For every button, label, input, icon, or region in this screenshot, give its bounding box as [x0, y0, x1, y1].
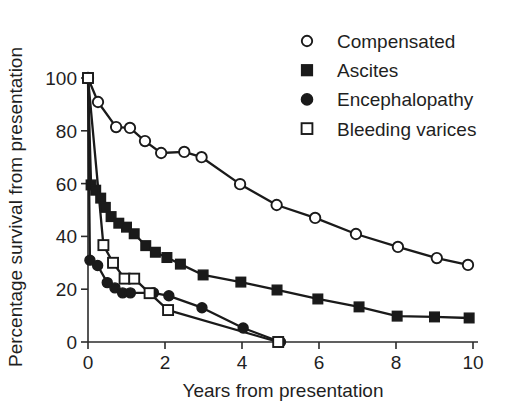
data-point — [313, 294, 323, 304]
data-point — [125, 123, 135, 133]
data-point — [464, 313, 474, 323]
data-point — [271, 200, 281, 210]
y-tick-label: 40 — [56, 226, 77, 247]
data-point — [141, 241, 151, 251]
data-point — [430, 312, 440, 322]
data-point — [162, 253, 172, 263]
data-point — [93, 260, 103, 270]
y-tick-label: 80 — [56, 121, 77, 142]
legend-label: Bleeding varices — [337, 119, 476, 140]
data-point — [164, 291, 174, 301]
legend-item-ascites[interactable]: Ascites — [302, 60, 399, 81]
survival-chart-figure: 020406080100 0246810 Years from presenta… — [0, 0, 505, 419]
data-point — [354, 302, 364, 312]
x-tick-label: 6 — [314, 352, 325, 373]
y-axis-ticks: 020406080100 — [45, 68, 88, 353]
data-point — [351, 229, 361, 239]
data-point — [129, 229, 139, 239]
legend-marker-open-square-icon — [302, 123, 313, 134]
legend-item-compensated[interactable]: Compensated — [302, 31, 455, 52]
data-point — [129, 274, 139, 284]
data-point — [145, 288, 155, 298]
legend-item-bleeding-varices[interactable]: Bleeding varices — [302, 119, 477, 140]
x-axis-title: Years from presentation — [182, 380, 383, 401]
legend-label: Ascites — [337, 60, 398, 81]
legend-marker-open-circle-icon — [302, 36, 312, 46]
data-point — [463, 260, 473, 270]
chart-legend: CompensatedAscitesEncephalopathyBleeding… — [301, 31, 476, 140]
data-point — [197, 303, 207, 313]
data-point — [432, 253, 442, 263]
x-tick-label: 10 — [462, 352, 483, 373]
data-point — [96, 193, 106, 203]
data-point — [273, 337, 283, 347]
data-point — [196, 152, 206, 162]
x-tick-label: 4 — [237, 352, 248, 373]
data-point — [179, 147, 189, 157]
x-tick-label: 8 — [391, 352, 402, 373]
series-bleeding-varices — [83, 73, 283, 347]
legend-label: Compensated — [337, 31, 455, 52]
data-point — [393, 242, 403, 252]
data-point — [163, 305, 173, 315]
x-tick-label: 0 — [83, 352, 94, 373]
data-point — [140, 136, 150, 146]
series-layer — [83, 73, 474, 347]
y-tick-label: 0 — [66, 332, 77, 353]
data-point — [176, 259, 186, 269]
data-point — [198, 270, 208, 280]
data-point — [151, 247, 161, 257]
series-line — [88, 78, 469, 318]
data-point — [272, 285, 282, 295]
y-axis-title: Percentage survival from presentation — [5, 47, 26, 367]
legend-item-encephalopathy[interactable]: Encephalopathy — [301, 89, 473, 110]
y-tick-label: 100 — [45, 68, 77, 89]
data-point — [83, 73, 93, 83]
legend-marker-filled-circle-icon — [301, 94, 312, 105]
legend-label: Encephalopathy — [337, 89, 474, 110]
data-point — [310, 213, 320, 223]
data-point — [120, 274, 130, 284]
chart-canvas: 020406080100 0246810 Years from presenta… — [0, 0, 505, 419]
data-point — [111, 122, 121, 132]
y-tick-label: 20 — [56, 279, 77, 300]
series-line — [88, 78, 281, 342]
data-point — [236, 277, 246, 287]
series-encephalopathy — [83, 73, 286, 347]
data-point — [156, 148, 166, 158]
data-point — [98, 240, 108, 250]
data-point — [392, 311, 402, 321]
x-tick-label: 2 — [160, 352, 171, 373]
data-point — [108, 258, 118, 268]
y-tick-label: 60 — [56, 174, 77, 195]
legend-marker-filled-square-icon — [302, 65, 313, 76]
series-line — [88, 78, 278, 342]
data-point — [93, 97, 103, 107]
data-point — [125, 288, 135, 298]
data-point — [101, 203, 111, 213]
data-point — [235, 179, 245, 189]
